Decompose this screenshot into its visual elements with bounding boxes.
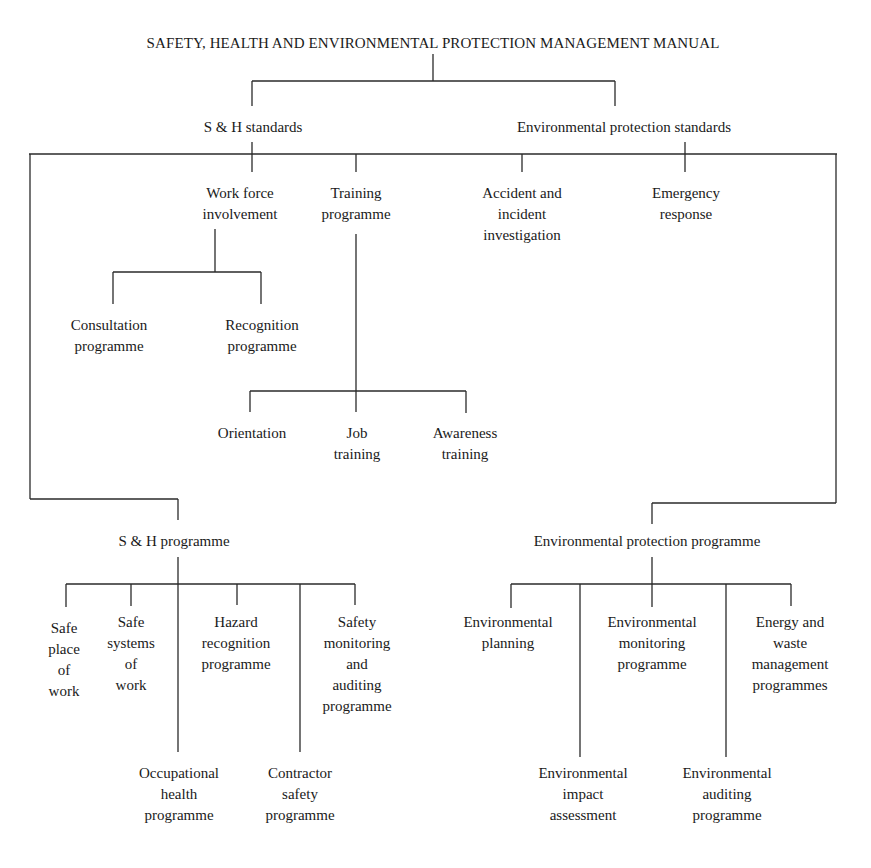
consultation-programme-node: Consultation programme bbox=[71, 315, 148, 357]
sh-programme-node: S & H programme bbox=[118, 531, 229, 552]
awareness-training-node: Awareness training bbox=[433, 423, 497, 465]
env-programme-node: Environmental protection programme bbox=[534, 531, 761, 552]
safe-systems-of-work-node: Safe systems of work bbox=[107, 612, 155, 696]
environmental-monitoring-programme-node: Environmental monitoring programme bbox=[607, 612, 696, 675]
contractor-safety-programme-node: Contractor safety programme bbox=[265, 763, 334, 826]
environmental-auditing-programme-node: Environmental auditing programme bbox=[682, 763, 771, 826]
occupational-health-programme-node: Occupational health programme bbox=[139, 763, 219, 826]
recognition-programme-node: Recognition programme bbox=[225, 315, 298, 357]
energy-waste-management-node: Energy and waste management programmes bbox=[752, 612, 829, 696]
sh-standards-node: S & H standards bbox=[204, 117, 303, 138]
training-programme-node: Training programme bbox=[321, 183, 390, 225]
safety-monitoring-auditing-node: Safety monitoring and auditing programme bbox=[322, 612, 391, 717]
job-training-node: Job training bbox=[334, 423, 381, 465]
accident-investigation-node: Accident and incident investigation bbox=[482, 183, 562, 246]
orientation-node: Orientation bbox=[218, 423, 286, 444]
manual-title: SAFETY, HEALTH AND ENVIRONMENTAL PROTECT… bbox=[147, 33, 720, 54]
env-standards-node: Environmental protection standards bbox=[517, 117, 731, 138]
environmental-impact-assessment-node: Environmental impact assessment bbox=[538, 763, 627, 826]
work-force-involvement-node: Work force involvement bbox=[203, 183, 278, 225]
safe-place-of-work-node: Safe place of work bbox=[48, 618, 80, 702]
hazard-recognition-programme-node: Hazard recognition programme bbox=[201, 612, 270, 675]
environmental-planning-node: Environmental planning bbox=[463, 612, 552, 654]
emergency-response-node: Emergency response bbox=[652, 183, 720, 225]
